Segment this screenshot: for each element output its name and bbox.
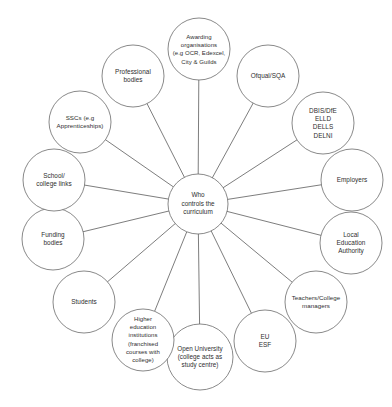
spoke-line-students (107, 223, 176, 282)
center-node-label: Who controls the curriculum (181, 191, 214, 217)
node-circle-professional-bodies[interactable] (102, 45, 164, 107)
spoke-line-awarding-organisations (198, 80, 199, 175)
node-circle-awarding-organisations[interactable] (168, 18, 230, 80)
spoke-line-sscs-apprenticeships (105, 139, 174, 187)
node-circle-open-university[interactable] (167, 324, 233, 390)
node-circle-funding-bodies[interactable] (22, 208, 84, 270)
node-circle-eu-esf[interactable] (234, 310, 296, 372)
node-circle-dbis-dfe-elld-dells-delni[interactable] (292, 92, 354, 154)
spoke-line-teachers-college-managers (221, 223, 293, 283)
spoke-line-dbis-dfe-elld-dells-delni (223, 140, 298, 188)
spoke-line-local-education-authority (227, 211, 322, 235)
node-circle-school-college-links[interactable] (23, 149, 85, 211)
node-circle-ofqual-sqa[interactable] (237, 45, 299, 107)
spoke-line-ofqual-sqa (212, 103, 253, 178)
node-circle-sscs-apprenticeships[interactable] (49, 91, 111, 153)
node-circle-teachers-college-managers[interactable] (285, 271, 347, 333)
curriculum-control-diagram: Awarding organisations (e.g OCR, Edexcel… (0, 0, 392, 407)
node-circle-local-education-authority[interactable] (320, 212, 382, 274)
spoke-line-employers (227, 185, 322, 200)
node-circle-employers[interactable] (321, 149, 383, 211)
spoke-line-professional-bodies (147, 103, 185, 178)
spoke-line-school-college-links (84, 185, 169, 199)
node-circle-higher-education-institutions[interactable] (112, 309, 174, 371)
spoke-line-higher-education-institutions (154, 231, 187, 311)
spoke-line-open-university (198, 234, 199, 325)
node-circle-students[interactable] (53, 271, 115, 333)
spoke-line-funding-bodies (83, 211, 170, 232)
